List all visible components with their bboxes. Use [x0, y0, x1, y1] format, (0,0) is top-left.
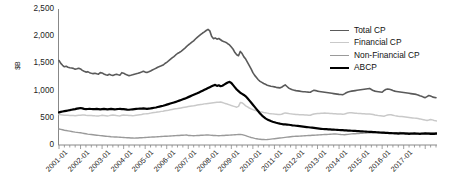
y-tick-label: 2,500	[14, 5, 54, 13]
legend-swatch-icon	[330, 30, 349, 31]
chart-legend: Total CPFinancial CPNon-Financial CPABCP	[330, 24, 448, 74]
legend-item-abcp[interactable]: ABCP	[330, 62, 448, 75]
legend-label: ABCP	[354, 63, 377, 72]
x-axis-tick-labels: 2001-012002-012003-012004-012005-012006-…	[58, 145, 437, 192]
y-tick-label: 1,000	[14, 87, 54, 95]
y-tick-label: 0	[14, 141, 54, 149]
chart-container: $B 05001,0001,5002,0002,500 2001-012002-…	[0, 0, 451, 192]
legend-item-financial-cp[interactable]: Financial CP	[330, 37, 448, 50]
series-line-financial-cp	[59, 102, 437, 121]
legend-item-non-financial-cp[interactable]: Non-Financial CP	[330, 49, 448, 62]
y-tick-label: 1,500	[14, 59, 54, 67]
legend-label: Non-Financial CP	[354, 51, 420, 60]
legend-label: Total CP	[354, 26, 386, 35]
legend-item-total-cp[interactable]: Total CP	[330, 24, 448, 37]
legend-swatch-icon	[330, 42, 349, 43]
y-tick-label: 500	[14, 114, 54, 122]
legend-swatch-icon	[330, 55, 349, 56]
legend-label: Financial CP	[354, 38, 401, 47]
legend-swatch-icon	[330, 67, 349, 69]
series-line-non-financial-cp	[59, 129, 437, 140]
y-tick-label: 2,000	[14, 32, 54, 40]
